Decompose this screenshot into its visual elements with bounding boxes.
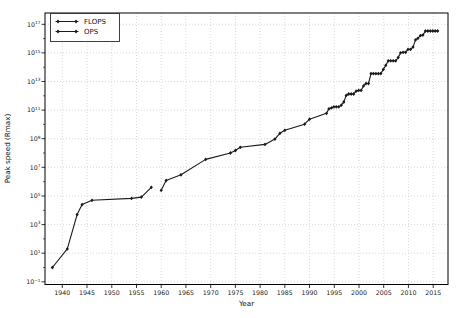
x-tick-label: 1960 bbox=[153, 289, 169, 296]
y-axis-label: Peak speed (Rmax) bbox=[3, 114, 12, 184]
x-tick-label: 2010 bbox=[400, 289, 416, 296]
x-tick-label: 1945 bbox=[79, 289, 95, 296]
x-tick-label: 1970 bbox=[203, 289, 219, 296]
y-tick-label: 1013 bbox=[27, 77, 41, 84]
axis-ticks bbox=[42, 24, 434, 288]
x-tick-label: 1940 bbox=[54, 289, 70, 296]
flops-data-marker bbox=[367, 82, 370, 86]
x-axis-label: Year bbox=[238, 299, 254, 308]
y-tick-label: 103 bbox=[30, 220, 41, 227]
peak-speed-chart: 1940194519501955196019651970197519801985… bbox=[0, 0, 463, 318]
flops-series-line bbox=[161, 31, 438, 190]
y-tick-label: 109 bbox=[30, 135, 41, 142]
figure: 1940194519501955196019651970197519801985… bbox=[0, 0, 463, 318]
x-tick-label: 1975 bbox=[227, 289, 243, 296]
legend: FLOPS OPS bbox=[51, 14, 120, 42]
x-tick-label: 1995 bbox=[326, 289, 342, 296]
y-tick-label: 105 bbox=[30, 192, 41, 199]
x-tick-label: 2005 bbox=[376, 289, 392, 296]
y-tick-label: 1017 bbox=[27, 20, 41, 27]
flops-data-marker bbox=[263, 143, 266, 147]
x-tick-label: 1955 bbox=[128, 289, 144, 296]
x-tick-label: 1980 bbox=[252, 289, 268, 296]
tick-labels: 1940194519501955196019651970197519801985… bbox=[26, 20, 441, 295]
x-tick-label: 1965 bbox=[178, 289, 194, 296]
gridlines bbox=[45, 13, 448, 285]
y-tick-label: 10−1 bbox=[26, 278, 41, 285]
x-tick-label: 2000 bbox=[351, 289, 367, 296]
plot-border bbox=[45, 13, 448, 285]
data-series bbox=[51, 29, 440, 269]
ops-data-marker bbox=[90, 198, 93, 202]
legend-label-ops: OPS bbox=[84, 28, 99, 36]
y-tick-label: 107 bbox=[30, 163, 41, 170]
ops-data-marker bbox=[130, 197, 133, 201]
x-tick-label: 1950 bbox=[104, 289, 120, 296]
x-tick-label: 2015 bbox=[425, 289, 441, 296]
y-tick-label: 1011 bbox=[27, 106, 41, 113]
flops-data-marker bbox=[229, 151, 232, 155]
x-tick-label: 1990 bbox=[301, 289, 317, 296]
legend-label-flops: FLOPS bbox=[84, 18, 106, 26]
y-tick-label: 1015 bbox=[27, 49, 41, 56]
y-tick-label: 101 bbox=[30, 249, 41, 256]
x-tick-label: 1985 bbox=[277, 289, 293, 296]
flops-data-marker bbox=[436, 29, 439, 33]
